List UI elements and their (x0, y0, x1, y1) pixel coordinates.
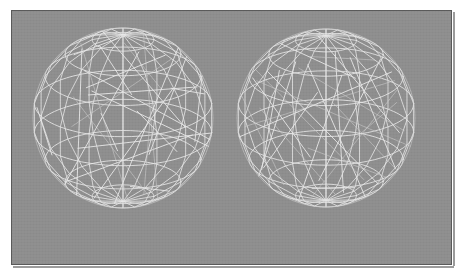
panel-drop-shadow-right (453, 12, 455, 266)
render-stage (0, 0, 464, 277)
scene-background (12, 11, 451, 264)
render-viewport[interactable] (11, 10, 452, 265)
wireframe-scene (12, 11, 451, 264)
panel-drop-shadow (13, 266, 454, 268)
